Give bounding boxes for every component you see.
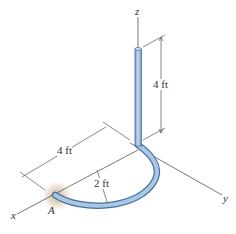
point-a-label: A <box>48 205 55 216</box>
pipe-assembly-diagram <box>0 0 236 234</box>
z-axis-label: z <box>135 6 139 17</box>
y-axis-label: y <box>223 193 228 204</box>
pipe-top-end <box>135 47 142 50</box>
radius-dimension-label: 2 ft <box>94 178 109 189</box>
x-axis-label: x <box>11 210 16 221</box>
pipe-vertical-section <box>135 49 142 146</box>
horizontal-dimension-label: 4 ft <box>57 145 72 156</box>
horizontal-dimension <box>20 122 130 190</box>
vertical-dimension-label: 4 ft <box>153 79 168 90</box>
